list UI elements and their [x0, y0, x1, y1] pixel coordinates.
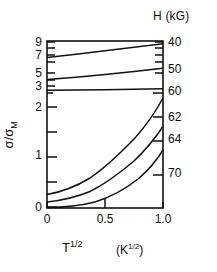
figure-chart: H (kG) 9 7 5 3 2 1 0 σ/σM 40 50 60 62 64… [0, 0, 217, 272]
curve-group-upper [47, 44, 163, 91]
curve-H40 [47, 44, 163, 58]
curve-H50 [47, 68, 163, 79]
curve-H62 [47, 98, 163, 195]
curve-H60 [47, 89, 163, 91]
plot-svg [0, 0, 217, 272]
curve-group-lower [47, 98, 163, 208]
right-tick-marks [153, 42, 163, 175]
left-tick-marks [47, 42, 57, 207]
